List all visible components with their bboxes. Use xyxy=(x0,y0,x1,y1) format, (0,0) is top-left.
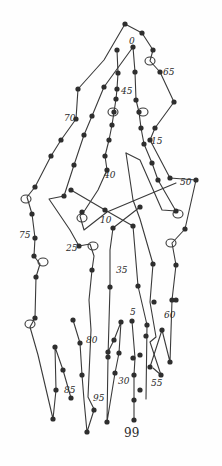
ink-dot xyxy=(137,387,142,392)
ink-dot xyxy=(155,177,160,182)
ink-dot xyxy=(48,153,53,158)
ink-dot xyxy=(50,416,55,421)
ink-dot xyxy=(149,160,154,165)
ink-dot xyxy=(79,209,84,214)
ink-dot xyxy=(89,113,94,118)
ink-dot xyxy=(173,208,178,213)
number-label-0: 0 xyxy=(129,36,135,46)
ink-dot xyxy=(79,372,84,377)
ink-dot xyxy=(130,223,135,228)
ink-dot xyxy=(137,352,142,357)
ink-dot xyxy=(118,319,123,324)
number-label-45: 45 xyxy=(120,86,133,96)
ink-dot xyxy=(143,333,148,338)
ink-dot xyxy=(111,109,116,114)
number-label-50: 50 xyxy=(180,177,192,187)
ink-dot xyxy=(122,21,127,26)
ink-dot xyxy=(171,99,176,104)
ink-dot xyxy=(141,141,146,146)
ink-dot xyxy=(139,30,144,35)
ink-dot xyxy=(112,370,117,375)
ink-dot xyxy=(52,344,57,349)
number-label-60: 60 xyxy=(164,310,176,320)
ink-dot xyxy=(182,226,187,231)
number-label-35: 35 xyxy=(116,265,128,275)
ink-dot xyxy=(131,372,136,377)
ink-dot xyxy=(71,162,76,167)
ink-dot xyxy=(29,211,34,216)
ink-dot xyxy=(115,70,120,75)
dot-drawing-canvas: 065457015405010752535560803055859599 xyxy=(0,0,222,466)
ink-dot xyxy=(129,318,134,323)
ink-dot xyxy=(135,283,140,288)
ink-dot xyxy=(107,284,112,289)
ink-dot xyxy=(102,153,107,158)
ink-dot xyxy=(137,204,142,209)
ink-dot xyxy=(173,262,178,267)
ink-dot xyxy=(33,274,38,279)
ink-dot xyxy=(133,97,138,102)
ink-dot xyxy=(147,364,152,369)
ink-dot xyxy=(77,340,82,345)
number-label-85: 85 xyxy=(64,385,76,395)
number-label-40: 40 xyxy=(103,170,116,180)
ink-dot xyxy=(136,109,141,114)
ink-dot xyxy=(144,322,149,327)
ink-dot xyxy=(84,429,89,434)
ink-dot xyxy=(157,69,162,74)
ink-dot xyxy=(32,315,37,320)
ink-dot xyxy=(91,407,96,412)
ink-dot xyxy=(75,86,80,91)
ink-dot xyxy=(131,417,136,422)
number-label-75: 75 xyxy=(19,230,31,240)
ink-dot xyxy=(70,317,75,322)
ink-dot xyxy=(105,354,110,359)
ink-dot xyxy=(114,47,119,52)
number-label-80: 80 xyxy=(86,335,98,345)
ink-dot xyxy=(116,350,121,355)
ink-dot xyxy=(152,125,157,130)
ink-dot xyxy=(106,137,111,142)
ink-dot xyxy=(111,337,116,342)
ink-dot xyxy=(53,387,58,392)
ink-dot xyxy=(150,261,155,266)
ink-dot xyxy=(150,47,155,52)
ink-dot xyxy=(32,235,37,240)
ink-dot xyxy=(114,86,119,91)
ink-dot xyxy=(167,359,172,364)
ink-dot xyxy=(61,193,66,198)
ink-dot xyxy=(32,184,37,189)
ink-dot xyxy=(31,253,36,258)
ink-dot xyxy=(130,355,135,360)
ink-dot xyxy=(110,225,115,230)
ink-dot xyxy=(102,207,107,212)
ink-dot xyxy=(193,177,198,182)
ink-dot xyxy=(138,125,143,130)
number-label-30: 30 xyxy=(118,376,130,386)
ink-dot xyxy=(101,84,106,89)
number-label-5: 5 xyxy=(130,307,136,317)
ink-dot xyxy=(68,187,73,192)
ink-dot xyxy=(132,69,137,74)
ink-dot xyxy=(81,132,86,137)
ink-dot xyxy=(68,395,73,400)
ink-dot xyxy=(151,299,156,304)
number-label-55: 55 xyxy=(151,378,163,388)
ink-dot xyxy=(60,367,65,372)
ink-dot xyxy=(159,327,164,332)
ink-dot xyxy=(173,297,178,302)
number-label-65: 65 xyxy=(163,67,175,77)
ink-dot xyxy=(89,267,94,272)
ink-dot xyxy=(109,122,114,127)
number-label-25: 25 xyxy=(65,243,78,253)
ink-dot xyxy=(167,175,172,180)
ink-dot xyxy=(58,137,63,142)
number-label-95: 95 xyxy=(93,393,105,403)
number-label-15: 15 xyxy=(151,136,163,146)
ink-dot xyxy=(104,419,109,424)
number-label-70: 70 xyxy=(64,113,76,123)
ink-dot xyxy=(113,96,118,101)
ink-dot xyxy=(105,349,110,354)
ink-dot xyxy=(131,397,136,402)
number-label-10: 10 xyxy=(100,215,112,225)
